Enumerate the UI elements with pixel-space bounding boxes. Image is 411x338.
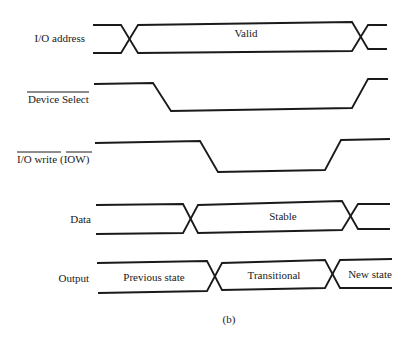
label-io-write: I/O write(IOW) bbox=[17, 153, 90, 166]
data-lower-trace bbox=[96, 201, 390, 234]
label-io-address: I/O address bbox=[35, 32, 85, 44]
label-io-write-main: I/O write bbox=[17, 153, 57, 165]
figure-caption: (b) bbox=[223, 313, 236, 326]
segment-new-state: New state bbox=[348, 268, 392, 280]
label-output: Output bbox=[58, 272, 89, 284]
label-data: Data bbox=[70, 213, 91, 225]
label-io-write-paren: (IOW) bbox=[60, 153, 90, 166]
waveform-data bbox=[96, 201, 390, 234]
segment-previous-state: Previous state bbox=[123, 271, 185, 283]
segment-valid: Valid bbox=[234, 27, 258, 39]
label-device-select: Device Select bbox=[28, 93, 89, 105]
segment-transitional: Transitional bbox=[248, 269, 301, 281]
waveform-device-select bbox=[94, 79, 388, 111]
segment-stable: Stable bbox=[269, 210, 297, 222]
waveform-io-write bbox=[95, 139, 390, 172]
timing-diagram: I/O address Device Select I/O write(IOW)… bbox=[0, 0, 411, 338]
